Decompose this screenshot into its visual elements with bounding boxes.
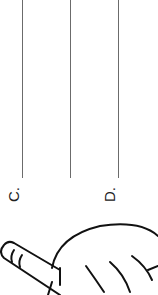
hand-holding-pencil-icon: [0, 0, 158, 295]
